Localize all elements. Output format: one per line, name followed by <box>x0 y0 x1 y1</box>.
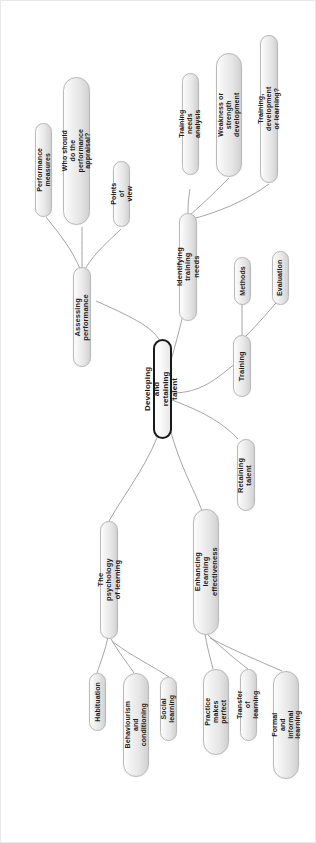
link-identifying-tdl <box>192 184 269 219</box>
node-identifying-training-needs-label: Identifying training needs <box>175 247 200 286</box>
node-who-should-do-appraisal[interactable]: Who should do the performance appraisal? <box>63 77 90 225</box>
node-enhancing-learning-effectiveness-label: Enhancing learning effectiveness <box>193 548 218 597</box>
node-training-development-or-learning-label: Training, development or learning? <box>257 87 280 131</box>
node-training-label: Training <box>238 351 246 381</box>
node-points-of-view-label: Points of view <box>110 183 133 205</box>
node-training-needs-analysis[interactable]: Training needs analysis <box>182 73 199 175</box>
link-identifying-tna <box>188 189 190 213</box>
node-methods-label: Methods <box>239 266 247 295</box>
node-methods[interactable]: Methods <box>234 257 251 305</box>
node-points-of-view[interactable]: Points of view <box>113 161 130 227</box>
node-social-learning[interactable]: Social learning <box>160 677 177 741</box>
node-assessing-performance-label: Assessing performance <box>74 294 91 341</box>
diagram-frame: Developing and retaining talent Assessin… <box>0 0 316 843</box>
node-transfer-of-learning[interactable]: Transfer of learning <box>240 669 257 741</box>
node-who-should-do-appraisal-label: Who should do the performance appraisal? <box>61 129 92 173</box>
node-transfer-of-learning-label: Transfer of learning <box>237 691 260 719</box>
link-root-training <box>172 363 236 393</box>
link-root-retaining <box>172 400 238 439</box>
node-identifying-training-needs[interactable]: Identifying training needs <box>179 213 197 321</box>
node-training[interactable]: Training <box>233 335 251 397</box>
node-formal-and-informal-learning-label: Formal and informal learning <box>270 711 301 739</box>
node-behaviourism-and-conditioning[interactable]: Behaviourism and conditioning <box>123 673 149 777</box>
link-psych-behaviourism <box>111 639 134 673</box>
node-weakness-or-strength-development[interactable]: Weakness or strength development <box>216 53 242 177</box>
link-psych-social <box>113 642 169 677</box>
link-assessing-points <box>85 229 121 269</box>
node-habituation[interactable]: Habituation <box>89 673 106 731</box>
node-training-development-or-learning[interactable]: Training, development or learning? <box>260 35 278 183</box>
node-assessing-performance[interactable]: Assessing performance <box>73 267 91 367</box>
link-identifying-weakness <box>190 178 229 215</box>
node-formal-and-informal-learning[interactable]: Formal and informal learning <box>273 671 299 779</box>
node-practice-makes-perfect-label: Practice makes perfect <box>204 698 227 726</box>
link-enhancing-formal <box>210 638 282 671</box>
mind-map-canvas: Developing and retaining talent Assessin… <box>1 1 316 843</box>
node-enhancing-learning-effectiveness[interactable]: Enhancing learning effectiveness <box>193 509 219 635</box>
node-weakness-or-strength-development-label: Weakness or strength development <box>217 93 240 137</box>
node-retaining-talent-label: Retaining talent <box>238 457 255 492</box>
node-evaluation[interactable]: Evaluation <box>272 251 289 305</box>
node-psychology-of-learning-label: The psychology of learning <box>96 559 121 602</box>
link-psych-habituation <box>97 637 108 673</box>
node-behaviourism-and-conditioning-label: Behaviourism and conditioning <box>124 701 147 749</box>
node-retaining-talent[interactable]: Retaining talent <box>237 439 255 511</box>
node-habituation-label: Habituation <box>94 682 102 722</box>
node-root-label: Developing and retaining talent <box>145 367 181 411</box>
link-root-enhancing <box>169 425 204 517</box>
node-performance-measures-label: Performance measures <box>36 148 52 192</box>
node-performance-measures[interactable]: Performance measures <box>35 123 52 217</box>
node-psychology-of-learning[interactable]: The psychology of learning <box>100 521 118 639</box>
node-root[interactable]: Developing and retaining talent <box>153 339 172 439</box>
node-practice-makes-perfect[interactable]: Practice makes perfect <box>203 669 229 755</box>
node-social-learning-label: Social learning <box>161 695 177 723</box>
node-training-needs-analysis-label: Training needs analysis <box>179 110 202 138</box>
node-evaluation-label: Evaluation <box>277 260 285 296</box>
